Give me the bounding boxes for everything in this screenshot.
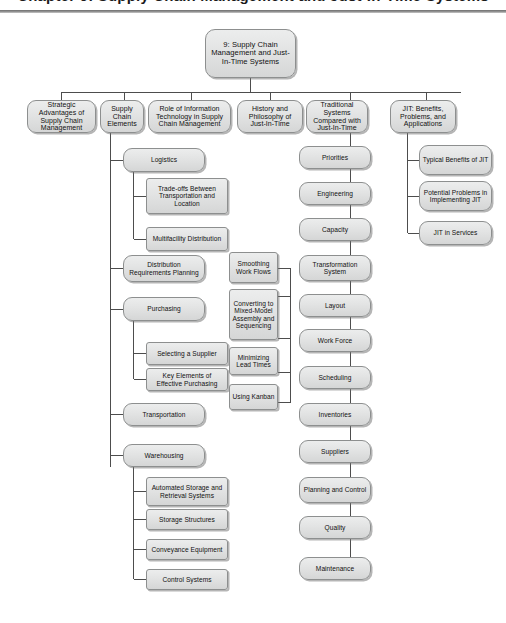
node-label: Traditional Systems Compared with Just-I… [309,101,365,131]
diagram-canvas: Chapter 9: Supply Chain Management and J… [0,0,506,623]
node-inventories[interactable]: Inventories [299,403,371,426]
node-label: Distribution Requirements Planning [126,261,202,275]
node-label: Trade-offs Between Transportation and Lo… [149,185,225,206]
node-quality[interactable]: Quality [299,516,371,539]
node-label: JIT: Benefits, Problems, and Application… [393,105,453,128]
node-transformation-system[interactable]: Transformation System [299,255,371,281]
node-label: Conveyance Equipment [151,546,222,553]
node-label: History and Philosophy of Just-In-Time [240,105,300,128]
node-label: 9: Supply Chain Management and Just-In-T… [208,41,293,66]
node-automated-storage-retrieval[interactable]: Automated Storage and Retrieval Systems [146,477,228,506]
node-label: Planning and Control [304,486,367,493]
node-label: Priorities [322,154,348,161]
node-label: Control Systems [162,576,211,583]
node-label: Layout [325,302,345,309]
node-conveyance-equipment[interactable]: Conveyance Equipment [146,539,228,560]
node-maintenance[interactable]: Maintenance [299,557,371,580]
node-distribution-requirements-planning[interactable]: Distribution Requirements Planning [123,255,205,282]
node-label: Role of Information Technology in Supply… [151,105,228,128]
node-priorities[interactable]: Priorities [299,146,371,169]
node-label: Supply Chain Elements [103,105,141,128]
node-label: Logistics [151,156,177,163]
node-traditional-systems[interactable]: Traditional Systems Compared with Just-I… [306,100,368,133]
node-label: Engineering [317,190,353,197]
node-label: Work Force [318,337,352,344]
node-label: Converting to Mixed-Model Assembly and S… [232,300,275,328]
node-label: Purchasing [147,305,181,312]
node-tradeoffs-transportation-location[interactable]: Trade-offs Between Transportation and Lo… [146,178,228,214]
node-label: Strategic Advantages of Supply Chain Man… [30,101,93,131]
node-control-systems[interactable]: Control Systems [146,569,228,590]
node-potential-problems-implementing-jit[interactable]: Potential Problems in Implementing JIT [419,181,492,211]
node-label: Minimizing Lead Times [232,354,275,368]
node-label: Typical Benefits of JIT [423,156,489,163]
node-logistics[interactable]: Logistics [123,148,205,172]
node-selecting-a-supplier[interactable]: Selecting a Supplier [146,342,228,365]
node-label: Smoothing Work Flows [232,260,275,274]
node-label: Warehousing [144,452,183,459]
node-using-kanban[interactable]: Using Kanban [229,384,278,410]
node-strategic-advantages[interactable]: Strategic Advantages of Supply Chain Man… [27,100,96,133]
node-supply-chain-elements[interactable]: Supply Chain Elements [100,100,144,133]
node-root[interactable]: 9: Supply Chain Management and Just-In-T… [205,29,296,78]
node-purchasing[interactable]: Purchasing [123,297,205,321]
node-typical-benefits-of-jit[interactable]: Typical Benefits of JIT [419,145,492,175]
node-label: Scheduling [318,374,351,381]
node-label: Suppliers [321,448,349,455]
node-converting-mixed-model-assembly[interactable]: Converting to Mixed-Model Assembly and S… [229,289,278,340]
node-history-philosophy-jit[interactable]: History and Philosophy of Just-In-Time [237,100,303,133]
node-capacity[interactable]: Capacity [299,218,371,241]
node-layout[interactable]: Layout [299,294,371,317]
node-label: Using Kanban [232,393,274,400]
node-label: Quality [325,524,346,531]
node-jit-benefits-problems[interactable]: JIT: Benefits, Problems, and Application… [390,100,456,133]
node-label: Selecting a Supplier [157,350,217,357]
node-suppliers[interactable]: Suppliers [299,440,371,463]
node-work-force[interactable]: Work Force [299,329,371,352]
node-label: Transformation System [302,261,368,275]
node-multifacility-distribution[interactable]: Multifacility Distribution [146,227,228,251]
node-label: Inventories [319,411,352,418]
node-key-elements-effective-purchasing[interactable]: Key Elements of Effective Purchasing [146,368,228,391]
node-label: Transportation [143,411,186,418]
node-label: Maintenance [316,565,354,572]
node-label: Key Elements of Effective Purchasing [149,372,225,386]
node-label: Storage Structures [159,516,215,523]
node-scheduling[interactable]: Scheduling [299,366,371,389]
node-label: Capacity [322,226,348,233]
node-smoothing-work-flows[interactable]: Smoothing Work Flows [229,252,278,283]
node-storage-structures[interactable]: Storage Structures [146,509,228,530]
node-minimizing-lead-times[interactable]: Minimizing Lead Times [229,347,278,375]
node-transportation[interactable]: Transportation [123,403,205,426]
node-label: Potential Problems in Implementing JIT [422,189,489,203]
node-engineering[interactable]: Engineering [299,182,371,205]
node-jit-in-services[interactable]: JIT in Services [419,221,492,245]
node-warehousing[interactable]: Warehousing [123,444,205,467]
node-label: JIT in Services [434,229,478,236]
node-planning-and-control[interactable]: Planning and Control [299,477,371,503]
node-label: Automated Storage and Retrieval Systems [149,484,225,498]
node-label: Multifacility Distribution [153,235,221,242]
node-role-of-it[interactable]: Role of Information Technology in Supply… [148,100,231,133]
